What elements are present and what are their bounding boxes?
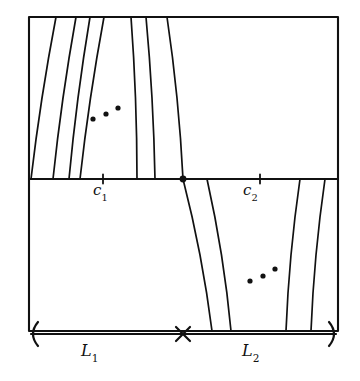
label-L1: L1 — [81, 341, 98, 362]
lower-curve-3 — [286, 179, 300, 331]
interval-bracket — [31, 322, 336, 346]
lower-curve-4 — [311, 179, 325, 331]
ellipsis-lower — [247, 266, 277, 283]
label-c2: c2 — [243, 181, 258, 201]
figure-canvas — [0, 0, 360, 381]
upper-curve-4 — [80, 17, 104, 179]
label-c1-sub: 1 — [101, 192, 107, 203]
math-figure: c1 c2 L1 L2 — [0, 0, 360, 381]
ellipsis-dot — [115, 105, 120, 110]
ellipsis-dot — [272, 266, 277, 271]
ellipsis-dot — [90, 116, 95, 121]
upper-curve-7 — [167, 17, 183, 179]
label-L2: L2 — [242, 341, 259, 362]
ellipsis-upper — [90, 105, 120, 121]
label-c1: c1 — [93, 181, 108, 201]
lower-curve-1 — [183, 179, 212, 331]
junction-dot — [180, 176, 187, 183]
upper-curve-2 — [53, 17, 76, 179]
ellipsis-dot — [103, 111, 108, 116]
upper-curve-1 — [31, 17, 56, 179]
label-L1-base: L — [81, 341, 92, 360]
upper-curve-6 — [146, 17, 155, 179]
upper-curve-5 — [131, 17, 137, 179]
label-L2-sub: 2 — [253, 352, 260, 364]
label-L2-base: L — [242, 341, 253, 360]
ellipsis-dot — [260, 273, 265, 278]
label-L1-sub: 1 — [92, 352, 99, 364]
upper-curve-family — [31, 17, 183, 179]
label-c2-sub: 2 — [251, 192, 257, 203]
ellipsis-dot — [247, 278, 252, 283]
lower-curve-2 — [207, 179, 231, 331]
